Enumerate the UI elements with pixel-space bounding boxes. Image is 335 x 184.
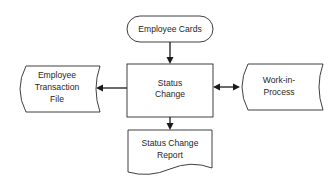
edge-status-to-work-in-process (213, 84, 240, 91)
arrowhead-icon (167, 57, 174, 64)
node-label-line-2: Process (263, 87, 294, 97)
arrowhead-left-icon (213, 84, 220, 91)
node-employee-transaction-file: Employee Transaction File (20, 66, 100, 112)
edge-status-to-report (167, 117, 174, 130)
node-label-line-1: Status Change (142, 138, 199, 148)
node-work-in-process: Work-in- Process (242, 64, 323, 110)
flowchart-diagram: Employee Cards Status Change Employee Tr… (0, 0, 335, 184)
node-label-line-1: Employee (38, 70, 76, 80)
arrowhead-right-icon (233, 84, 240, 91)
node-label-line-1: Work-in- (263, 75, 295, 85)
node-label: Employee Cards (138, 24, 202, 34)
node-label-line-2: Report (157, 150, 183, 160)
arrowhead-icon (96, 85, 103, 92)
node-employee-cards: Employee Cards (127, 16, 213, 42)
node-status-change: Status Change (127, 64, 213, 117)
node-status-change-report: Status Change Report (128, 130, 212, 174)
node-label-line-1: Status (158, 78, 182, 88)
edge-cards-to-status (167, 42, 174, 64)
node-label-line-2: Change (155, 89, 185, 99)
node-label-line-3: File (50, 94, 64, 104)
node-label-line-2: Transaction (35, 82, 80, 92)
edge-status-to-transaction-file (96, 85, 127, 92)
arrowhead-icon (167, 123, 174, 130)
